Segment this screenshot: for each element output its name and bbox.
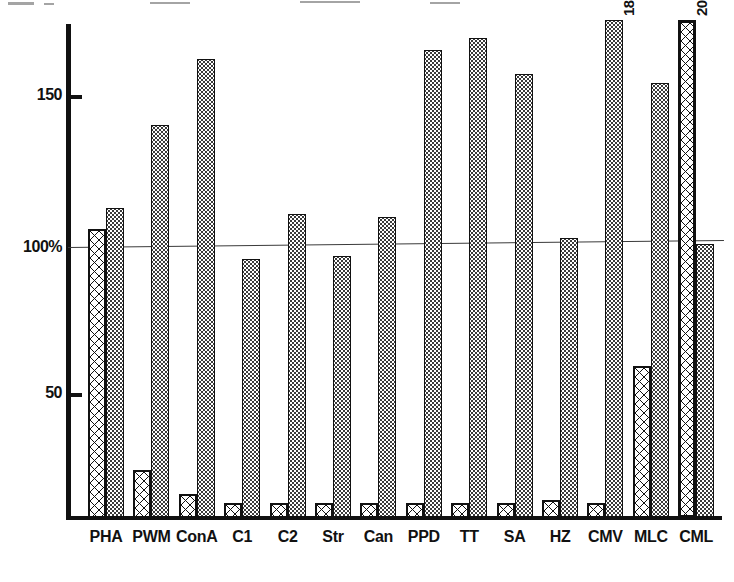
x-axis-label-hz: HZ xyxy=(534,528,586,546)
bar-group-pwm xyxy=(133,24,169,518)
bar-group-can xyxy=(360,24,396,518)
scan-artifact xyxy=(44,3,54,5)
bar-group-ppd xyxy=(406,24,442,518)
x-axis-label-mlc: MLC xyxy=(625,528,677,546)
bar-str-dotted xyxy=(333,256,351,518)
x-axis xyxy=(66,516,722,520)
x-axis-label-str: Str xyxy=(307,528,359,546)
bar-tt-dotted xyxy=(469,38,487,518)
bar-group-pha xyxy=(88,24,124,518)
bar-can-dotted xyxy=(378,217,396,518)
bar-pha-crosshatched xyxy=(88,229,106,518)
x-axis-label-tt: TT xyxy=(443,528,495,546)
bar-cmv-dotted xyxy=(605,20,623,518)
y-tick-label-50: 50 xyxy=(45,384,62,402)
x-axis-label-ppd: PPD xyxy=(398,528,450,546)
x-axis-label-cml: CML xyxy=(670,528,722,546)
x-axis-label-can: Can xyxy=(352,528,404,546)
x-axis-label-pwm: PWM xyxy=(125,528,177,546)
bar-ppd-dotted xyxy=(424,50,442,518)
scan-artifact xyxy=(300,1,360,3)
bar-cml-dotted xyxy=(696,244,714,518)
bar-mlc-dotted xyxy=(651,83,669,518)
bar-cona-dotted xyxy=(197,59,215,518)
bar-group-tt xyxy=(451,24,487,518)
bar-pwm-crosshatched xyxy=(133,470,151,518)
x-axis-label-cmv: CMV xyxy=(579,528,631,546)
bar-sa-dotted xyxy=(515,74,533,518)
x-axis-label-c1: C1 xyxy=(216,528,268,546)
bar-cml-crosshatched xyxy=(678,20,696,518)
truncated-value-cml: 200 xyxy=(693,0,710,16)
bar-group-cml xyxy=(678,24,714,518)
bar-mlc-crosshatched xyxy=(633,366,651,518)
bar-group-str xyxy=(315,24,351,518)
bar-pha-dotted xyxy=(106,208,124,518)
y-tick-label-150: 150 xyxy=(37,86,62,104)
bar-group-mlc xyxy=(633,24,669,518)
bar-group-sa xyxy=(497,24,533,518)
bar-c2-dotted xyxy=(288,214,306,518)
bar-group-hz xyxy=(542,24,578,518)
scan-artifact xyxy=(150,2,190,4)
bar-group-cona xyxy=(179,24,215,518)
bar-group-c2 xyxy=(270,24,306,518)
bar-c1-dotted xyxy=(242,259,260,518)
y-tick-label-100: 100% xyxy=(23,238,62,256)
x-axis-label-sa: SA xyxy=(489,528,541,546)
x-axis-label-pha: PHA xyxy=(80,528,132,546)
y-tick-label-150-wrap: 150 xyxy=(0,86,62,104)
bar-cona-crosshatched xyxy=(179,494,197,518)
x-axis-label-cona: ConA xyxy=(171,528,223,546)
scan-artifact xyxy=(8,2,34,5)
plot-area: 180200 xyxy=(66,24,722,518)
bar-hz-dotted xyxy=(560,238,578,518)
scan-artifact xyxy=(430,2,460,4)
bar-group-c1 xyxy=(224,24,260,518)
y-tick-label-50-wrap: 50 xyxy=(0,384,62,402)
y-tick-label-100-wrap: 100% xyxy=(0,238,62,256)
bar-pwm-dotted xyxy=(151,125,169,518)
truncated-value-cmv: 180 xyxy=(620,0,637,16)
x-axis-label-c2: C2 xyxy=(262,528,314,546)
bar-group-cmv xyxy=(587,24,623,518)
bar-chart-figure: 150 100% 50 180200 PHAPWMConAC1C2StrCanP… xyxy=(0,0,734,582)
